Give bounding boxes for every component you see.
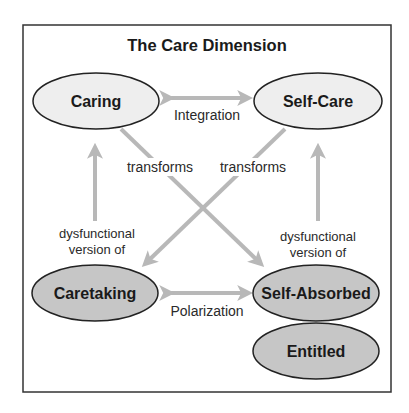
node-self-absorbed: Self-Absorbed	[253, 265, 379, 321]
dysfunctional-right-line2: version of	[290, 245, 347, 260]
dysfunctional-left-line2: version of	[69, 242, 126, 257]
caring-label: Caring	[71, 93, 122, 110]
node-entitled: Entitled	[253, 323, 379, 379]
polarization-label: Polarization	[170, 303, 243, 319]
node-caring: Caring	[33, 73, 159, 129]
transforms-right-label: transforms	[220, 159, 286, 175]
dysfunctional-right-line1: dysfunctional	[280, 229, 356, 244]
diagram-title: The Care Dimension	[127, 36, 287, 54]
care-dimension-diagram: The Care Dimension Integration Polarizat…	[0, 0, 409, 413]
caretaking-label: Caretaking	[54, 285, 137, 302]
node-self-care: Self-Care	[254, 73, 382, 129]
node-caretaking: Caretaking	[32, 265, 158, 321]
self-care-label: Self-Care	[283, 93, 353, 110]
self-absorbed-label: Self-Absorbed	[261, 285, 370, 302]
dysfunctional-left-line1: dysfunctional	[59, 226, 135, 241]
transforms-left-label: transforms	[127, 159, 193, 175]
entitled-label: Entitled	[287, 343, 346, 360]
integration-label: Integration	[174, 107, 240, 123]
